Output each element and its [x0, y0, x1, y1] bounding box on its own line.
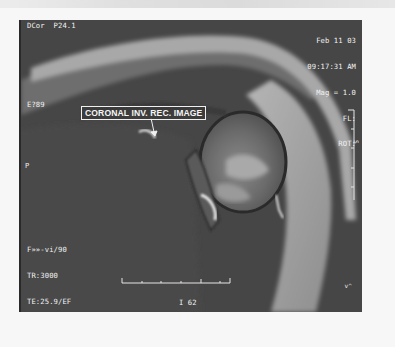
flip-label: FL:	[307, 115, 356, 124]
orientation-left: P	[25, 162, 29, 171]
series-label: DCor P24.1	[27, 22, 76, 31]
acquisition-params: F»»-vi/90 TR:3000 TE:25.9/EF EC:1/1 15.6…	[27, 229, 89, 312]
annotation-label: CORONAL INV. REC. IMAGE	[81, 106, 206, 120]
study-time: 09:17:31 AM	[307, 63, 356, 72]
study-date: Feb 11 03	[307, 37, 356, 46]
param-line: TR:3000	[27, 272, 89, 281]
slice-location: I 62	[179, 299, 197, 308]
orientation-right: S	[351, 140, 360, 144]
param-line: F»»-vi/90	[27, 246, 89, 255]
mri-image: DCor P24.1 Feb 11 03 09:17:31 AM Mag = 1…	[19, 20, 362, 312]
study-info: Feb 11 03 09:17:31 AM Mag = 1.0 FL: ROT:	[307, 20, 356, 166]
param-line: TE:25.9/EF	[27, 298, 89, 307]
rotation-label: ROT:	[307, 140, 356, 149]
scan-header-strip	[0, 0, 395, 8]
corner-mark: v^	[345, 282, 352, 291]
side-marker: E?89	[27, 101, 45, 110]
magnification: Mag = 1.0	[307, 89, 356, 98]
